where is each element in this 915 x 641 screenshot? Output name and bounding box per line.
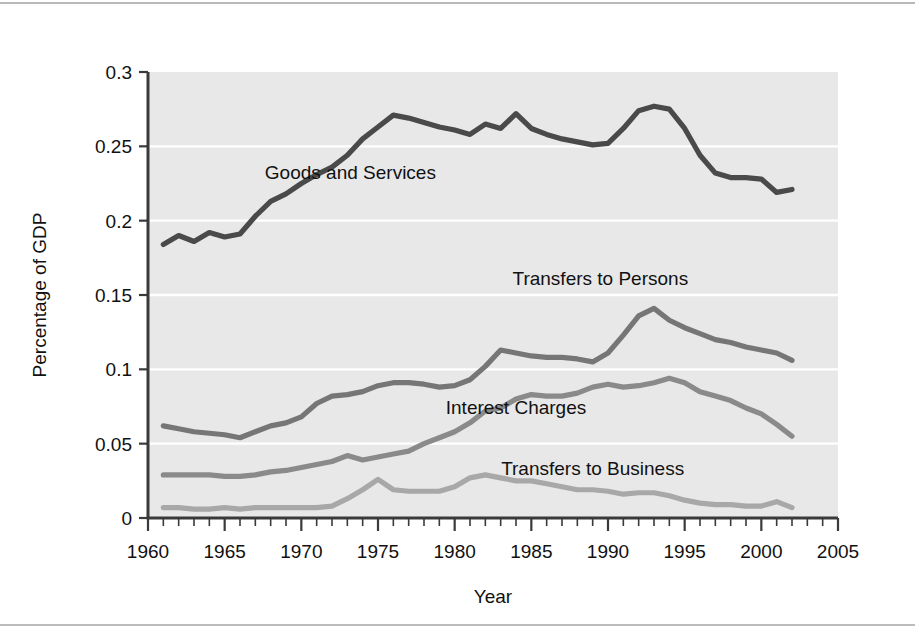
x-tick-label: 1960	[127, 541, 169, 562]
y-tick-label: 0.3	[106, 62, 132, 83]
y-tick-label: 0.25	[95, 136, 132, 157]
x-tick-label: 1975	[357, 541, 399, 562]
series-label-transfers-to-business: Transfers to Business	[501, 458, 684, 479]
y-tick-label: 0.05	[95, 434, 132, 455]
x-tick-label: 1965	[204, 541, 246, 562]
y-tick-label: 0.2	[106, 211, 132, 232]
series-label-goods-and-services: Goods and Services	[265, 162, 436, 183]
y-axis-title: Percentage of GDP	[29, 213, 50, 378]
x-tick-label: 2005	[817, 541, 859, 562]
x-tick-label: 1990	[587, 541, 629, 562]
x-tick-label: 1970	[280, 541, 322, 562]
x-axis-title: Year	[474, 586, 513, 607]
figure-container: 00.050.10.150.20.250.3 19601965197019751…	[0, 0, 915, 641]
line-chart: 00.050.10.150.20.250.3 19601965197019751…	[0, 0, 915, 641]
top-divider-rule	[0, 2, 915, 4]
series-label-interest-charges: Interest Charges	[446, 397, 586, 418]
x-tick-label: 1995	[664, 541, 706, 562]
y-tick-label: 0	[121, 508, 132, 529]
x-tick-label: 2000	[740, 541, 782, 562]
x-axis-tick-labels: 1960196519701975198019851990199520002005	[127, 541, 859, 562]
y-tick-label: 0.1	[106, 359, 132, 380]
x-tick-label: 1985	[510, 541, 552, 562]
x-tick-label: 1980	[434, 541, 476, 562]
y-tick-label: 0.15	[95, 285, 132, 306]
bottom-divider-rule	[0, 624, 915, 626]
y-axis-tick-labels: 00.050.10.150.20.250.3	[95, 62, 132, 529]
series-label-transfers-to-persons: Transfers to Persons	[513, 268, 689, 289]
